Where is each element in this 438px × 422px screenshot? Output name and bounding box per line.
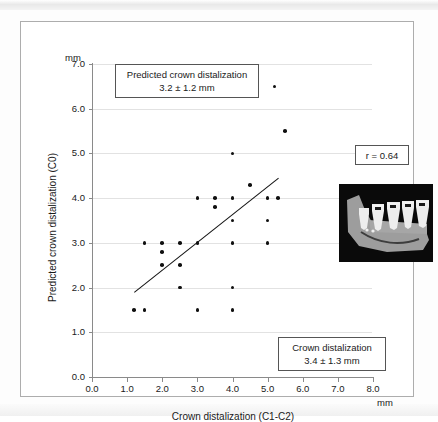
y-axis-tick bbox=[89, 288, 93, 289]
y-axis-tick-label: 2.0 bbox=[57, 282, 85, 293]
scatter-point bbox=[283, 129, 287, 133]
x-axis-tick bbox=[92, 378, 93, 382]
x-axis-tick bbox=[303, 378, 304, 382]
y-axis-tick-label: 4.0 bbox=[57, 192, 85, 203]
predicted-mean-callout: Predicted crown distalization 3.2 ± 1.2 … bbox=[115, 64, 259, 98]
figure-frame: 0.01.02.03.04.05.06.07.00.01.02.03.04.05… bbox=[20, 21, 414, 397]
x-axis-tick bbox=[162, 378, 163, 382]
x-axis-tick-label: 8.0 bbox=[358, 383, 388, 394]
scatter-point bbox=[160, 250, 164, 254]
observed-mean-callout: Crown distalization 3.4 ± 1.3 mm bbox=[278, 337, 386, 371]
scatter-point bbox=[178, 241, 182, 245]
mandible-radiograph-icon bbox=[339, 184, 433, 262]
regression-line bbox=[134, 178, 279, 293]
x-axis-title: Crown distalization (C1-C2) bbox=[93, 411, 373, 422]
y-axis-tick-label: 0.0 bbox=[57, 371, 85, 382]
scatter-point bbox=[160, 241, 164, 245]
x-axis-tick-label: 5.0 bbox=[253, 383, 283, 394]
x-axis-tick bbox=[268, 378, 269, 382]
y-axis-unit: mm bbox=[65, 52, 81, 63]
scatter-point bbox=[248, 183, 252, 187]
scatter-point bbox=[276, 196, 280, 200]
x-axis-tick bbox=[233, 378, 234, 382]
x-axis-tick-label: 7.0 bbox=[323, 383, 353, 394]
scatter-point bbox=[231, 308, 235, 312]
scatter-point bbox=[143, 241, 147, 245]
x-axis-tick-label: 4.0 bbox=[218, 383, 248, 394]
x-axis-tick-label: 0.0 bbox=[77, 383, 107, 394]
scatter-point bbox=[266, 219, 270, 223]
y-axis-tick-label: 3.0 bbox=[57, 237, 85, 248]
scatter-point bbox=[266, 196, 270, 200]
scatter-point bbox=[160, 263, 164, 267]
predicted-mean-line1: Predicted crown distalization bbox=[122, 69, 252, 82]
scatter-point bbox=[231, 286, 235, 290]
y-axis-line bbox=[92, 63, 93, 378]
x-axis-tick bbox=[127, 378, 128, 382]
y-axis-tick-label: 5.0 bbox=[57, 147, 85, 158]
scatter-point bbox=[143, 308, 147, 312]
scatter-point bbox=[178, 286, 182, 290]
gridline-y bbox=[92, 332, 372, 333]
y-axis-tick bbox=[89, 332, 93, 333]
x-axis-tick bbox=[197, 378, 198, 382]
scatter-point bbox=[231, 241, 235, 245]
x-axis-tick bbox=[338, 378, 339, 382]
y-axis-tick bbox=[89, 198, 93, 199]
scatter-point bbox=[132, 308, 136, 312]
scatter-point bbox=[196, 308, 200, 312]
x-axis-unit: mm bbox=[377, 397, 393, 408]
x-axis-tick-label: 3.0 bbox=[182, 383, 212, 394]
x-axis-tick-label: 6.0 bbox=[288, 383, 318, 394]
dental-radiograph-inset bbox=[339, 184, 433, 262]
scatter-point bbox=[231, 219, 235, 223]
x-axis-tick-label: 1.0 bbox=[112, 383, 142, 394]
observed-mean-line1: Crown distalization bbox=[285, 342, 379, 355]
x-axis-tick-label: 2.0 bbox=[147, 383, 177, 394]
observed-mean-line2: 3.4 ± 1.3 mm bbox=[285, 355, 379, 368]
scatter-point bbox=[273, 85, 277, 89]
y-axis-tick-label: 6.0 bbox=[57, 103, 85, 114]
predicted-mean-line2: 3.2 ± 1.2 mm bbox=[122, 82, 252, 95]
y-axis-tick-label: 1.0 bbox=[57, 326, 85, 337]
scatter-point bbox=[178, 263, 182, 267]
scatter-point bbox=[196, 196, 200, 200]
scatter-point bbox=[266, 241, 270, 245]
scan-edge-top bbox=[0, 0, 438, 10]
y-axis-tick bbox=[89, 64, 93, 65]
scatter-point bbox=[231, 152, 235, 156]
scatter-point bbox=[213, 196, 217, 200]
x-axis-tick bbox=[373, 378, 374, 382]
scatter-point bbox=[231, 196, 235, 200]
gridline-y bbox=[92, 109, 372, 110]
y-axis-title: Predicted crown distalization (C0) bbox=[47, 78, 58, 378]
y-axis-tick bbox=[89, 153, 93, 154]
y-axis-tick bbox=[89, 243, 93, 244]
correlation-callout: r = 0.64 bbox=[355, 145, 409, 165]
y-axis-tick bbox=[89, 109, 93, 110]
scatter-point bbox=[213, 205, 217, 209]
